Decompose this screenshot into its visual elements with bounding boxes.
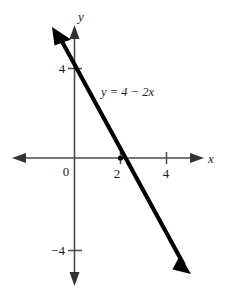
line-arrow-upper-left-icon	[52, 27, 71, 46]
equation-annotation: y = 4 − 2x	[99, 85, 154, 99]
line-series-y-equals-4-minus-2x	[52, 27, 191, 274]
y-axis-arrow-up-icon	[70, 25, 80, 39]
graph-figure: y x 0 2 4 4 −4 y = 4 − 2x	[0, 0, 227, 295]
y-axis-arrow-down-icon	[70, 272, 80, 286]
coordinate-plane: y x 0 2 4 4 −4 y = 4 − 2x	[0, 0, 227, 295]
x-axis-label: x	[207, 151, 214, 166]
y-tick-label-4: 4	[59, 61, 66, 76]
x-tick-label-4: 4	[163, 166, 170, 181]
origin-label: 0	[63, 164, 70, 179]
x-axis-arrow-right-icon	[190, 153, 204, 163]
x-tick-label-2: 2	[114, 166, 121, 181]
x-axis-arrow-left-icon	[12, 153, 26, 163]
x-intercept-point	[118, 155, 123, 160]
y-tick-label-minus-4: −4	[51, 243, 65, 258]
y-axis-label: y	[76, 9, 84, 24]
line-segment	[59, 36, 184, 265]
